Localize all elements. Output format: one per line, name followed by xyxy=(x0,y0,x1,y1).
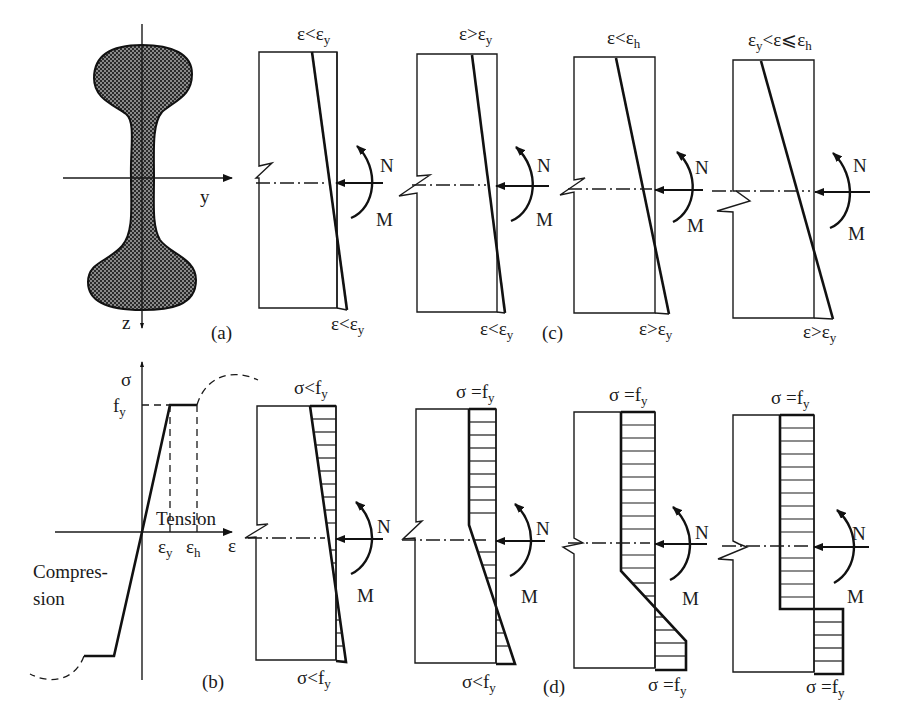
stress-panel-2: N M σ =fy σ<fy (d) xyxy=(402,381,565,698)
stress-hatching xyxy=(469,422,509,646)
stress-bottom-label: σ =fy xyxy=(806,676,845,700)
moment-arrow xyxy=(511,147,533,221)
moment-label: M xyxy=(521,586,538,607)
stress-top-label: σ =fy xyxy=(609,384,648,408)
axial-force-label: N xyxy=(695,522,709,543)
stress-panel-3: N M σ =fy σ =fy xyxy=(563,384,709,698)
moment-label: M xyxy=(376,209,393,230)
z-axis-label: z xyxy=(122,312,130,333)
strain-top-label: ε>εy xyxy=(459,23,493,47)
eps-y-label: εy xyxy=(158,536,173,560)
stress-hatching xyxy=(621,425,686,656)
stress-diagram xyxy=(469,409,515,664)
panel-label-c: (c) xyxy=(542,322,563,344)
beam-outline xyxy=(245,406,336,660)
beam-outline xyxy=(399,54,497,312)
moment-label: M xyxy=(536,209,553,230)
panel-label-a: (a) xyxy=(211,322,232,344)
strain-hardening-tension-curve xyxy=(197,375,258,405)
stress-hatching xyxy=(780,428,843,661)
stress-bottom-label: σ<fy xyxy=(462,671,496,695)
strain-top-label: ε<εy xyxy=(297,23,331,47)
fy-label: fy xyxy=(113,395,126,419)
axial-force-label: N xyxy=(852,523,866,544)
stress-top-label: σ =fy xyxy=(771,387,810,411)
stress-top-label: σ<fy xyxy=(294,377,328,401)
axial-force-label: N xyxy=(380,155,394,176)
beam-outline xyxy=(717,60,814,318)
strain-line xyxy=(761,61,833,319)
moment-label: M xyxy=(682,588,699,609)
compression-label-line2: sion xyxy=(33,588,65,609)
strain-panel-2: N M ε>εy ε<εy (c) xyxy=(399,23,563,344)
strain-bottom-label: ε<εy xyxy=(480,318,514,342)
strain-top-label: εy<ε⩽εh xyxy=(748,29,812,53)
stress-strain-curve-b: σ ε fy εy εh Tension Compres- sion (b) xyxy=(30,362,258,693)
beam-outline xyxy=(560,57,655,313)
eps-h-label: εh xyxy=(186,536,201,560)
epsilon-axis-label: ε xyxy=(228,535,236,556)
stress-bottom-label: σ =fy xyxy=(648,674,687,698)
strain-panel-1: N M ε<εy ε<εy xyxy=(256,23,394,337)
panel-label-d: (d) xyxy=(543,676,565,698)
strain-panel-4: N M εy<ε⩽εh ε>εy xyxy=(712,29,870,345)
strain-line xyxy=(312,52,347,310)
moment-label: M xyxy=(687,215,704,236)
moment-label: M xyxy=(357,585,374,606)
strain-bottom-label: ε>εy xyxy=(639,318,673,342)
moment-label: M xyxy=(847,586,864,607)
tension-label: Tension xyxy=(156,508,216,529)
strain-bottom-label: ε>εy xyxy=(803,321,837,345)
axial-force-label: N xyxy=(377,516,391,537)
moment-label: M xyxy=(848,223,865,244)
moment-arrow xyxy=(673,152,693,222)
strain-bottom-label: ε<εy xyxy=(331,313,365,337)
y-axis-label: y xyxy=(200,186,210,207)
stress-top-label: σ =fy xyxy=(456,381,495,405)
panel-label-b: (b) xyxy=(202,671,224,693)
elastic-plastic-curve xyxy=(84,405,197,656)
compression-label-line1: Compres- xyxy=(33,561,108,582)
strain-line xyxy=(472,55,505,313)
moment-arrow xyxy=(830,153,850,228)
stress-panel-1: N M σ<fy σ<fy xyxy=(245,377,391,691)
axial-force-label: N xyxy=(537,155,551,176)
axial-force-label: N xyxy=(853,155,867,176)
strain-top-label: ε<εh xyxy=(607,27,641,51)
strain-line xyxy=(616,58,669,314)
beam-section-stress-strain-figure: y z (a) N M ε<εy ε<εy N M ε>εy ε<εy (c) xyxy=(0,0,905,727)
stress-panel-4: N M σ =fy σ =fy xyxy=(718,387,869,700)
axial-force-label: N xyxy=(695,157,709,178)
stress-bottom-label: σ<fy xyxy=(297,667,331,691)
beam-outline xyxy=(403,409,496,663)
axial-force-label: N xyxy=(536,518,550,539)
strain-panel-3: N M ε<εh ε>εy xyxy=(560,27,709,342)
strain-hardening-compression-curve xyxy=(30,656,84,680)
beam-outline xyxy=(256,52,337,308)
sigma-axis-label: σ xyxy=(121,369,131,390)
cross-section-a: y z (a) xyxy=(63,24,232,344)
